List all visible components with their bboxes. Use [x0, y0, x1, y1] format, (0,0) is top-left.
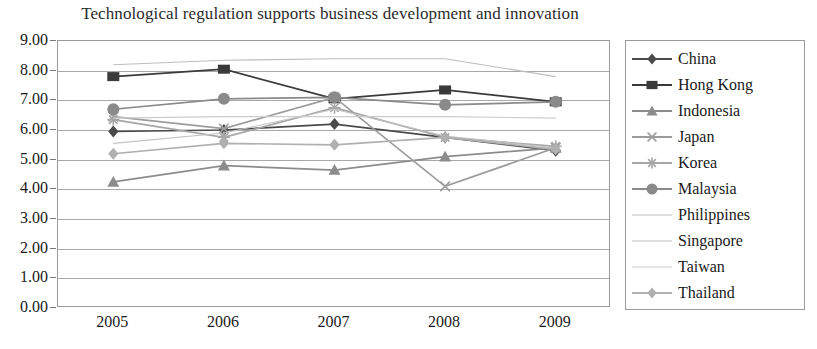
y-tick-mark [50, 129, 56, 130]
legend-swatch [632, 75, 672, 95]
series-thailand [108, 131, 561, 159]
legend-label: Thailand [678, 285, 735, 301]
data-point [107, 72, 119, 81]
data-point [329, 118, 339, 130]
x-axis: 20052006200720082009 [57, 309, 610, 343]
legend-label: Hong Kong [678, 77, 753, 93]
legend-item-thailand[interactable]: Thailand [632, 280, 804, 306]
legend-item-korea[interactable]: Korea [632, 150, 804, 176]
legend-swatch [632, 127, 672, 147]
data-point [439, 85, 451, 94]
circle-marker-icon [644, 181, 660, 197]
x-tick-label: 2009 [539, 313, 571, 331]
x-tick-label: 2006 [207, 313, 239, 331]
data-point [108, 148, 118, 160]
diamond-marker-icon [644, 51, 660, 67]
legend-swatch [632, 257, 672, 277]
data-point [218, 93, 230, 105]
chart-title: Technological regulation supports busine… [0, 4, 660, 24]
x-tick-label: 2005 [96, 313, 128, 331]
data-point [329, 139, 339, 151]
y-tick-mark [50, 307, 56, 308]
legend-label: Japan [678, 129, 714, 145]
legend-label: China [678, 51, 716, 67]
legend-label: Taiwan [678, 259, 725, 275]
y-tick-mark [50, 99, 56, 100]
legend-swatch [632, 153, 672, 173]
y-tick-mark [50, 218, 56, 219]
data-point [440, 182, 450, 192]
series-singapore [113, 59, 555, 77]
y-tick-label: 5.00 [20, 150, 48, 168]
legend-swatch [632, 205, 672, 225]
legend-item-singapore[interactable]: Singapore [632, 228, 804, 254]
legend-label: Korea [678, 155, 717, 171]
x-marker-icon [644, 129, 660, 145]
data-point [107, 103, 119, 115]
legend-item-indonesia[interactable]: Indonesia [632, 98, 804, 124]
y-tick-mark [50, 188, 56, 189]
y-tick-mark [50, 159, 56, 160]
legend-swatch [632, 179, 672, 199]
series-layer [58, 41, 611, 308]
legend-line [632, 241, 672, 242]
data-point [439, 99, 451, 111]
square-marker-icon [644, 77, 660, 93]
legend-swatch [632, 231, 672, 251]
legend-label: Indonesia [678, 103, 740, 119]
y-tick-mark [50, 70, 56, 71]
y-tick-mark [50, 248, 56, 249]
legend-item-hong-kong[interactable]: Hong Kong [632, 72, 804, 98]
y-tick-label: 2.00 [20, 239, 48, 257]
x-tick-label: 2007 [318, 313, 350, 331]
legend-item-japan[interactable]: Japan [632, 124, 804, 150]
legend-swatch [632, 101, 672, 121]
y-tick-label: 6.00 [20, 120, 48, 138]
diamond-marker-icon [644, 285, 660, 301]
legend-item-philippines[interactable]: Philippines [632, 202, 804, 228]
y-tick-label: 0.00 [20, 298, 48, 316]
data-point [218, 65, 230, 74]
chart-legend: ChinaHong KongIndonesiaJapanKoreaMalaysi… [625, 40, 805, 310]
data-point [108, 125, 118, 137]
data-point [107, 114, 119, 126]
legend-label: Singapore [678, 233, 743, 249]
y-tick-label: 7.00 [20, 90, 48, 108]
chart-container: Technological regulation supports busine… [0, 0, 817, 349]
y-tick-label: 3.00 [20, 209, 48, 227]
plot-area [57, 40, 610, 307]
series-taiwan [113, 117, 555, 118]
legend-item-taiwan[interactable]: Taiwan [632, 254, 804, 280]
y-tick-mark [50, 277, 56, 278]
data-point [219, 137, 229, 149]
legend-item-china[interactable]: China [632, 46, 804, 72]
y-tick-mark [50, 40, 56, 41]
legend-line [632, 215, 672, 216]
legend-line [632, 267, 672, 268]
y-tick-label: 4.00 [20, 179, 48, 197]
legend-label: Philippines [678, 207, 750, 223]
star-marker-icon [644, 155, 660, 171]
legend-label: Malaysia [678, 181, 737, 197]
legend-swatch [632, 283, 672, 303]
y-tick-label: 1.00 [20, 268, 48, 286]
triangle-marker-icon [644, 103, 660, 119]
legend-item-malaysia[interactable]: Malaysia [632, 176, 804, 202]
y-tick-label: 8.00 [20, 61, 48, 79]
legend-swatch [632, 49, 672, 69]
data-point [550, 96, 562, 108]
y-axis: 9.008.007.006.005.004.003.002.001.000.00 [0, 40, 52, 307]
data-point [329, 102, 341, 114]
data-point [329, 91, 341, 103]
y-tick-label: 9.00 [20, 31, 48, 49]
x-tick-label: 2008 [428, 313, 460, 331]
